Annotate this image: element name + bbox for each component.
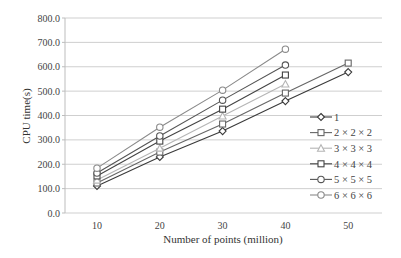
y-tick-label: 600.0	[38, 61, 61, 72]
y-tick-label: 700.0	[38, 37, 61, 48]
x-tick-label: 40	[280, 220, 290, 231]
series-4	[94, 72, 288, 179]
series-lines	[94, 46, 352, 189]
diamond-legend-icon	[318, 114, 325, 121]
circle-legend-icon	[318, 192, 324, 198]
circle-marker-icon	[282, 46, 288, 52]
triangle-marker-icon	[156, 145, 163, 152]
legend-item: 2 × 2 × 2	[310, 127, 372, 138]
square-legend-icon	[318, 130, 324, 136]
square-marker-icon	[345, 60, 351, 66]
series-5	[94, 62, 289, 176]
series-6	[94, 46, 289, 171]
y-axis: 0.0100.0200.0300.0400.0500.0600.0700.080…	[38, 13, 66, 219]
y-tick-label: 500.0	[38, 86, 61, 97]
legend: 12 × 2 × 23 × 3 × 34 × 4 × 45 × 5 × 56 ×…	[310, 112, 373, 201]
y-tick-label: 300.0	[38, 134, 61, 145]
x-axis-title: Number of points (million)	[163, 233, 283, 246]
legend-label: 1	[334, 112, 339, 123]
x-tick-label: 50	[343, 220, 353, 231]
legend-item: 1	[310, 112, 339, 123]
series-line	[97, 75, 285, 176]
x-axis: 1020304050	[92, 220, 353, 231]
square-marker-icon	[282, 90, 288, 96]
x-tick-label: 30	[218, 220, 228, 231]
y-tick-label: 100.0	[38, 183, 61, 194]
square-marker-icon	[220, 121, 226, 127]
y-axis-title: CPU time(s)	[20, 88, 33, 144]
diamond-marker-icon	[345, 69, 352, 76]
square-legend-icon	[318, 161, 324, 167]
circle-marker-icon	[157, 133, 163, 139]
diamond-marker-icon	[219, 128, 226, 135]
circle-marker-icon	[157, 124, 163, 130]
square-marker-icon	[282, 72, 288, 78]
legend-label: 6 × 6 × 6	[334, 190, 372, 201]
legend-item: 4 × 4 × 4	[310, 159, 373, 170]
legend-label: 3 × 3 × 3	[334, 143, 372, 154]
series-3	[94, 81, 289, 184]
circle-legend-icon	[318, 176, 324, 182]
circle-marker-icon	[219, 87, 225, 93]
series-2	[94, 60, 351, 186]
square-marker-icon	[220, 106, 226, 112]
series-line	[97, 84, 285, 180]
y-tick-label: 800.0	[38, 13, 61, 24]
diamond-marker-icon	[282, 98, 289, 105]
legend-label: 2 × 2 × 2	[334, 127, 372, 138]
x-tick-label: 10	[92, 220, 102, 231]
y-tick-label: 400.0	[38, 110, 61, 121]
legend-item: 6 × 6 × 6	[310, 190, 372, 201]
legend-item: 5 × 5 × 5	[310, 174, 372, 185]
x-tick-label: 20	[155, 220, 165, 231]
cpu-time-line-chart: 0.0100.0200.0300.0400.0500.0600.0700.080…	[0, 0, 401, 258]
legend-label: 5 × 5 × 5	[334, 174, 372, 185]
legend-item: 3 × 3 × 3	[310, 143, 372, 154]
y-tick-label: 0.0	[48, 208, 61, 219]
triangle-marker-icon	[282, 81, 289, 88]
y-tick-label: 200.0	[38, 159, 61, 170]
legend-label: 4 × 4 × 4	[334, 159, 373, 170]
circle-marker-icon	[219, 97, 225, 103]
series-line	[97, 65, 285, 173]
circle-marker-icon	[94, 165, 100, 171]
circle-marker-icon	[282, 62, 288, 68]
